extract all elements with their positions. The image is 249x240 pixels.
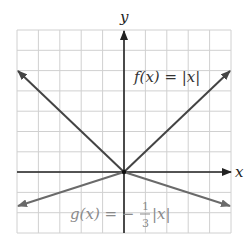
x-axis-label: x	[235, 163, 244, 181]
g-label-suffix: |x|	[152, 205, 171, 223]
g-label: g(x) = − 1 3 |x|	[70, 200, 171, 230]
origin-point	[122, 170, 126, 174]
f-label: f(x) = |x|	[133, 68, 200, 86]
graph: y x f(x) = |x| g(x) = − 1 3 |x|	[0, 0, 249, 240]
g-left-branch	[18, 172, 124, 206]
f-left-branch	[18, 71, 124, 172]
g-right-branch	[124, 172, 230, 206]
g-label-numerator: 1	[142, 200, 149, 213]
g-label-denominator: 3	[142, 217, 149, 230]
y-axis-label: y	[119, 8, 129, 26]
g-label-prefix: g(x) = −	[70, 205, 134, 223]
